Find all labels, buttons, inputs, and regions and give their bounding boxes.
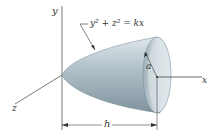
h-arrow-left [62, 123, 68, 127]
rim-inner [148, 40, 170, 110]
length-label: h [104, 119, 110, 129]
leader-arrowhead [91, 45, 95, 50]
radius-label: a [146, 62, 151, 71]
h-arrow-right [151, 123, 157, 127]
y-axis-label: y [52, 6, 58, 16]
x-axis-label: x [202, 76, 207, 85]
z-axis-label: z [12, 104, 17, 113]
z-axis [15, 75, 62, 104]
equation-label: y² + z² = kx [90, 19, 144, 28]
